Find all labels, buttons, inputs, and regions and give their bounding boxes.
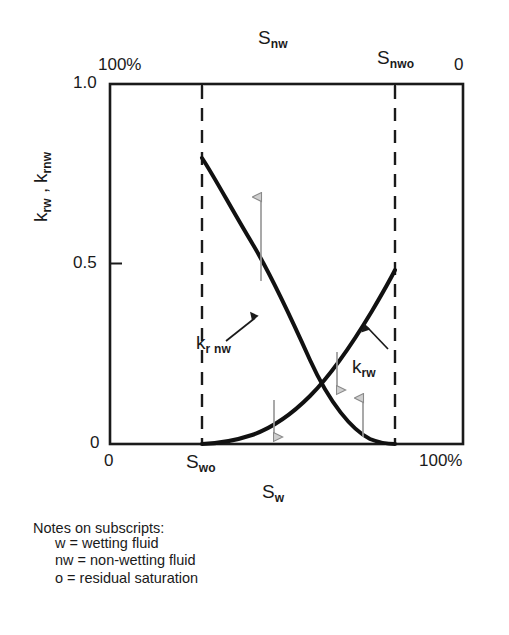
bottom-axis-right-label: 100% [419,452,462,469]
swo-main: S [186,451,199,472]
y-axis-label-separator: , [31,183,51,198]
bottom-axis-title-sub: w [275,491,285,505]
swo-sub: wo [199,461,216,475]
krnw-curve-label: kr nw [196,333,231,352]
notes-heading: Notes on subscripts: [33,521,198,536]
y-axis-label-krnw-sub: rnw [40,152,54,174]
krw-label-sub: rw [362,366,376,380]
notes-item-w: w = wetting fluid [55,536,198,551]
y-tick-1.0: 1.0 [73,74,97,91]
notes-item-o: o = residual saturation [55,571,198,586]
krw-label-main: k [352,356,362,377]
krw-curve-label: krw [352,357,376,376]
y-axis-label: krw , krnw [30,152,52,222]
y-tick-0: 0 [90,434,99,451]
bottom-axis-title-main: S [262,481,275,502]
top-axis-snwo-label: Snwo [377,48,414,67]
notes-item-nw: nw = non-wetting fluid [55,553,198,568]
bottom-axis-title: Sw [262,482,284,501]
saturation-reference-lines [202,86,395,443]
krnw-label-main: k [196,332,206,353]
krnw-label-sub: r nw [206,342,231,356]
top-axis-right-label: 0 [454,56,463,73]
bottom-axis-left-label: 0 [104,452,113,469]
top-axis-title-sub: nw [271,37,288,51]
y-axis-label-krw-sub: rw [40,198,54,212]
notes-block: Notes on subscripts: w = wetting fluid n… [33,521,198,588]
y-axis-label-krw-main: k [30,213,51,223]
bottom-axis-swo-label: Swo [186,452,216,471]
y-axis-label-krnw-main: k [30,174,51,184]
top-axis-left-label: 100% [98,56,141,73]
snwo-main: S [377,47,390,68]
top-axis-title-main: S [258,27,271,48]
notes-list: w = wetting fluid nw = non-wetting fluid… [55,536,198,586]
direction-arrows [261,197,363,437]
snwo-sub: nwo [390,57,415,71]
relative-permeability-figure: Snw 100% Snwo 0 1.0 0.5 0 krw , krnw kr … [0,0,509,635]
top-axis-ticks [202,84,395,96]
krw-leader-arrow [367,327,388,349]
y-tick-0.5: 0.5 [73,254,97,271]
plot-frame [110,84,463,444]
krnw-curve [202,158,395,444]
top-axis-title: Snw [258,28,288,47]
